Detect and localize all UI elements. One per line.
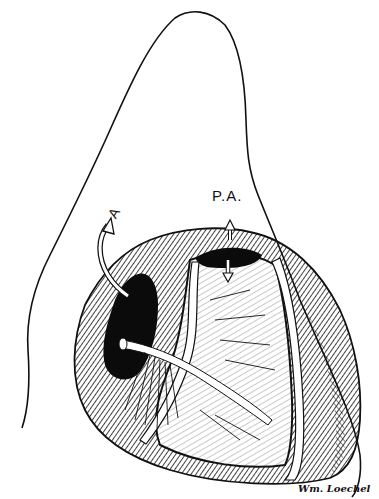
label-pulmonary-artery: P.A. [212,187,242,204]
band-end [119,338,127,350]
artist-signature: Wm. Loechel [298,483,370,494]
heart-illustration [0,0,379,499]
pa-arrowhead [225,220,235,230]
